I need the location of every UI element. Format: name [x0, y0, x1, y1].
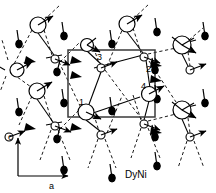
- site-label-2: 2: [146, 64, 151, 74]
- figure-caption: DyNi: [125, 169, 147, 180]
- dyni-structure-figure: 1 2 3 4 c a DyNi: [0, 0, 216, 193]
- axis-a-label: a: [49, 181, 54, 191]
- site-label-4: 4: [141, 81, 146, 91]
- site-label-1: 1: [79, 97, 84, 107]
- axis-c-label: c: [8, 132, 13, 142]
- site-label-3: 3: [97, 52, 102, 62]
